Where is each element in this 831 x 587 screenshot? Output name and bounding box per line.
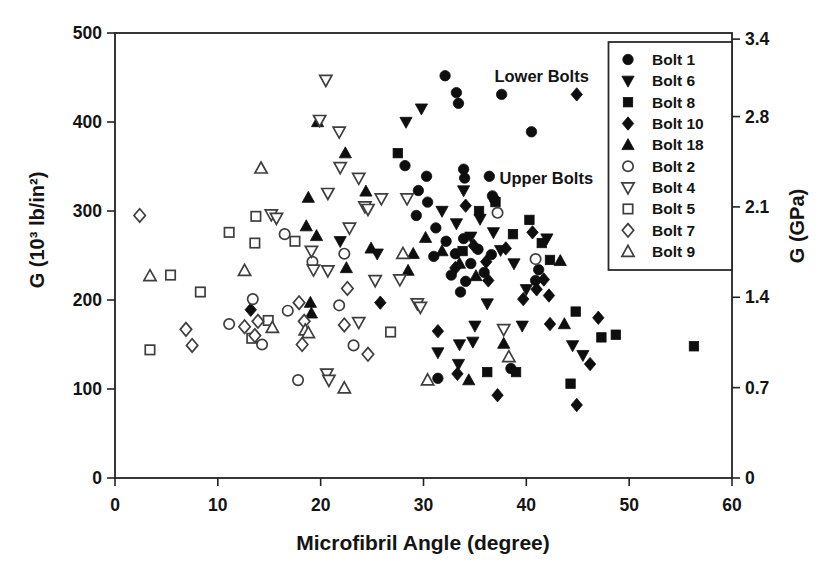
scatter-point: [245, 303, 256, 316]
scatter-point: [466, 258, 476, 268]
scatter-point: [255, 162, 267, 173]
x-tick-label: 60: [722, 495, 742, 515]
right-y-tick-label: 0: [745, 468, 755, 488]
left-y-tick-label: 500: [73, 23, 102, 43]
scatter-point: [238, 264, 250, 275]
left-y-axis: 0100200300400500: [73, 23, 115, 488]
scatter-point: [250, 238, 259, 247]
scatter-point: [571, 398, 582, 411]
scatter-point: [571, 307, 580, 316]
right-y-axis: 00.71.42.12.83.4: [732, 29, 770, 488]
scatter-point: [487, 228, 499, 239]
scatter-point: [432, 324, 443, 337]
left-y-tick-label: 400: [73, 112, 102, 132]
scatter-point: [577, 350, 589, 361]
scatter-point: [451, 87, 461, 97]
scatter-point: [257, 339, 267, 349]
scatter-point: [415, 104, 427, 115]
series-bolt-1: [400, 71, 544, 384]
scatter-point: [537, 238, 546, 247]
scatter-point: [305, 307, 317, 318]
scatter-point: [492, 389, 503, 402]
scatter-point: [597, 333, 606, 342]
scatter-point: [689, 342, 698, 351]
scatter-point: [453, 340, 465, 351]
scatter-point: [339, 318, 350, 331]
scatter-point: [145, 345, 154, 354]
scatter-point: [186, 339, 197, 352]
scatter-point: [304, 296, 316, 307]
scatter-point: [302, 191, 314, 202]
scatter-point: [469, 321, 481, 332]
x-tick-label: 50: [619, 495, 639, 515]
scatter-point: [307, 265, 319, 276]
scatter-point: [508, 259, 520, 270]
scatter-point: [339, 249, 349, 259]
legend-label: Bolt 18: [652, 136, 704, 153]
scatter-point: [558, 318, 570, 329]
scatter-point: [526, 127, 536, 137]
scatter-point: [290, 237, 299, 246]
scatter-point: [516, 321, 528, 332]
scatter-point: [413, 185, 423, 195]
scatter-point: [252, 315, 263, 328]
scatter-point: [544, 317, 555, 330]
scatter-point: [340, 262, 352, 273]
scatter-point: [134, 209, 145, 222]
scatter-point: [339, 147, 351, 158]
scatter-point: [402, 264, 414, 275]
x-tick-label: 40: [517, 495, 537, 515]
scatter-point: [300, 220, 312, 231]
scatter-point: [455, 287, 465, 297]
legend: Bolt 1Bolt 6Bolt 8Bolt 10Bolt 18Bolt 2Bo…: [609, 42, 733, 270]
scatter-point: [393, 148, 402, 157]
scatter-point: [239, 320, 250, 333]
right-y-tick-label: 3.4: [745, 29, 770, 49]
scatter-point: [251, 212, 260, 221]
x-axis: 0102030405060: [110, 478, 742, 515]
scatter-point: [386, 327, 395, 336]
right-y-tick-label: 0.7: [745, 378, 769, 398]
scatter-point: [334, 300, 344, 310]
legend-label: Bolt 2: [652, 158, 695, 175]
scatter-point: [293, 296, 304, 309]
scatter-point: [248, 294, 258, 304]
scatter-point: [554, 255, 566, 266]
scatter-point: [533, 265, 543, 275]
scatter-point: [450, 219, 462, 230]
left-y-tick-label: 0: [92, 468, 102, 488]
scatter-point: [338, 382, 350, 393]
scatter-point: [543, 289, 554, 302]
scatter-point: [224, 228, 233, 237]
scatter-point: [503, 351, 515, 362]
scatter-point: [342, 282, 353, 295]
legend-label: Bolt 10: [652, 115, 704, 132]
scatter-point: [498, 325, 510, 336]
scatter-point: [481, 299, 493, 310]
scatter-point: [333, 127, 345, 138]
legend-label: Bolt 4: [652, 179, 695, 196]
legend-marker: [623, 54, 633, 64]
legend-label: Bolt 7: [652, 222, 695, 239]
scatter-point: [369, 276, 381, 287]
scatter-point: [452, 367, 463, 380]
scatter-plot-canvas: Lower BoltsUpper Bolts010203040506001002…: [0, 0, 831, 587]
scatter-point: [411, 210, 421, 220]
scatter-point: [293, 375, 303, 385]
scatter-point: [394, 275, 406, 286]
scatter-point: [279, 229, 289, 239]
scatter-point: [310, 230, 322, 241]
scatter-point: [571, 88, 582, 101]
scatter-point: [320, 75, 332, 86]
legend-label: Bolt 6: [652, 72, 695, 89]
scatter-point: [527, 226, 538, 239]
series-bolt-10: [245, 88, 604, 412]
scatter-point: [458, 186, 470, 197]
scatter-point: [422, 374, 434, 385]
left-y-tick-label: 300: [73, 201, 102, 221]
scatter-point: [453, 98, 463, 108]
scatter-point: [422, 197, 432, 207]
x-tick-label: 0: [110, 495, 120, 515]
x-tick-label: 30: [414, 495, 434, 515]
legend-label: Bolt 9: [652, 243, 695, 260]
